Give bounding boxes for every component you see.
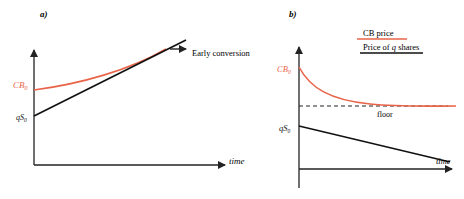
panel-b-qs0-label: qS0 <box>279 123 291 134</box>
panel-b-tag: b) <box>289 9 297 19</box>
panel-b-time-label: time <box>436 156 451 166</box>
convertible-bond-diagram: a) Early conversion CB0 qS0 time b) CB p… <box>0 0 464 199</box>
legend: CB price Price of q shares <box>357 28 423 53</box>
panel-a-time-label: time <box>229 156 245 166</box>
panel-b-share-line <box>299 126 450 162</box>
panel-b-cb-curve <box>299 67 456 106</box>
panel-a-qs0-label: qS0 <box>16 113 27 123</box>
panel-a-tag: a) <box>40 9 48 19</box>
floor-label: floor <box>377 110 393 119</box>
panel-b: b) CB price Price of q shares floor CB0 … <box>277 9 456 188</box>
panel-a-cb0-label: CB0 <box>13 80 28 91</box>
early-conversion-label: Early conversion <box>192 48 251 58</box>
panel-a-share-line <box>34 40 186 116</box>
panel-b-cb0-label: CB0 <box>277 64 291 75</box>
panel-a: a) Early conversion CB0 qS0 time <box>13 9 251 166</box>
legend-share-price-label: Price of q shares <box>363 42 419 52</box>
legend-cb-price-label: CB price <box>363 28 394 38</box>
